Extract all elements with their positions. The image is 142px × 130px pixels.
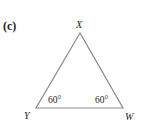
vertex-label-y: Y [24, 110, 31, 121]
part-label: (c) [3, 19, 16, 33]
vertex-label-w: W [125, 111, 135, 122]
vertex-label-x: X [75, 19, 83, 30]
triangle-diagram: (c) X Y W 60° 60° [0, 0, 142, 130]
angle-label-w: 60° [95, 95, 109, 105]
angle-label-y: 60° [48, 95, 62, 105]
